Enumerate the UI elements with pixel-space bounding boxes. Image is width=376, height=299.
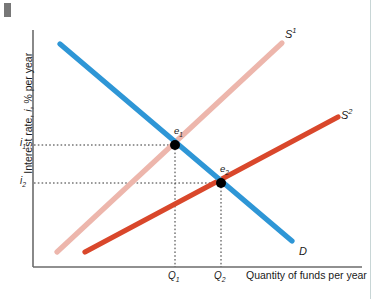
y-axis-title-variable: i bbox=[22, 109, 34, 111]
point-label-e2-subscript: 2 bbox=[225, 169, 229, 176]
curve-label-s1: S1 bbox=[285, 27, 297, 40]
point-label-e1: e1 bbox=[174, 126, 183, 138]
curve-label-s1-superscript: 1 bbox=[292, 26, 296, 35]
loanable-funds-chart-figure: Interest rate, i, % per year Quantity of… bbox=[0, 0, 376, 299]
y-axis-title-suffix: , % per year bbox=[22, 53, 34, 110]
x-tick-label-q2-subscript: 2 bbox=[222, 276, 226, 283]
y-axis-title: Interest rate, i, % per year bbox=[23, 33, 34, 193]
curve-supply-s1 bbox=[57, 43, 282, 252]
curve-label-s2: S2 bbox=[341, 108, 353, 121]
curve-label-d: D bbox=[299, 246, 307, 257]
x-tick-label-q1-subscript: 1 bbox=[176, 276, 180, 283]
curve-supply-s2 bbox=[85, 117, 338, 252]
x-tick-label-q2-base: Q bbox=[214, 270, 222, 281]
y-tick-label-i1: i1 bbox=[20, 138, 26, 151]
x-axis-title: Quantity of funds per year bbox=[246, 270, 367, 281]
y-tick-label-i2: i2 bbox=[20, 176, 26, 189]
point-label-e1-subscript: 1 bbox=[179, 131, 183, 138]
chart-plot-area bbox=[0, 0, 376, 299]
equilibrium-point-e2 bbox=[216, 178, 226, 188]
point-label-e2: e2 bbox=[220, 164, 229, 176]
equilibrium-point-e1 bbox=[170, 140, 180, 150]
x-tick-label-q1: Q1 bbox=[168, 271, 180, 284]
x-tick-label-q1-base: Q bbox=[168, 270, 176, 281]
y-tick-label-i1-subscript: 1 bbox=[22, 143, 26, 150]
y-tick-label-i2-subscript: 2 bbox=[22, 181, 26, 188]
x-tick-label-q2: Q2 bbox=[214, 271, 226, 284]
curve-label-s2-superscript: 2 bbox=[348, 107, 352, 116]
